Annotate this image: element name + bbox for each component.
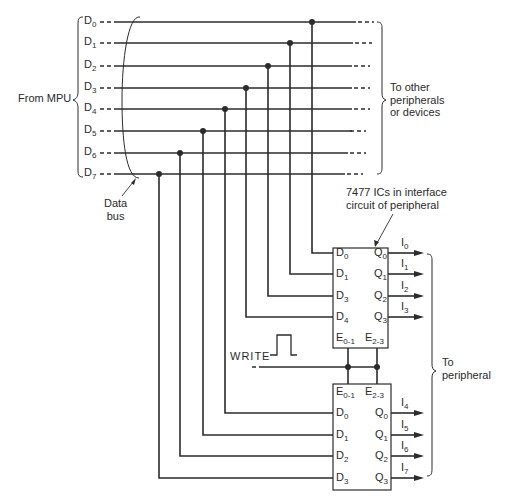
- bus-label-d6-sub: 6: [92, 151, 96, 160]
- ic-upper-pin-q1: Q1: [374, 267, 387, 282]
- bus-label-d2-sub: 2: [92, 64, 96, 73]
- to-other-peripherals-label: To other peripherals or devices: [390, 81, 444, 119]
- ic-upper-pin-q2: Q2: [374, 289, 387, 304]
- ic-lower-pin-e01: E0-1: [336, 385, 355, 400]
- data-bus-lines: [115, 22, 356, 174]
- pin-sub: 2-3: [372, 391, 384, 400]
- pin-sub: 2-3: [372, 337, 384, 346]
- pin-name: D: [336, 471, 344, 483]
- bus-label-d5-sub: 5: [92, 129, 96, 138]
- ic-lower-pin-e23: E2-3: [365, 385, 384, 400]
- bus-label-d7: D7: [84, 166, 96, 181]
- to-other-line-3: or devices: [390, 106, 444, 119]
- bus-label-d3: D3: [84, 80, 96, 95]
- ic-caption-line-1: 7477 ICs in interface: [346, 186, 447, 199]
- ic-lower-pin-q1: Q1: [375, 428, 388, 443]
- data-bus-line-2: bus: [104, 210, 127, 223]
- pin-sub: 0: [344, 412, 348, 421]
- pin-sub: 1: [344, 434, 348, 443]
- pin-sub: 3: [344, 295, 348, 304]
- bus-label-d6-name: D: [84, 145, 92, 157]
- to-peripheral-line-2: peripheral: [442, 369, 491, 382]
- bus-label-d2-name: D: [84, 58, 92, 70]
- to-other-line-1: To other: [390, 81, 444, 94]
- ic-upper-pin-d0: D0: [336, 246, 348, 261]
- pin-sub: 3: [344, 477, 348, 486]
- bus-label-d1: D1: [84, 35, 96, 50]
- pin-name: Q: [375, 406, 384, 418]
- write-pulse-icon: [270, 335, 297, 355]
- bus-label-d0: D0: [84, 14, 96, 29]
- signal-i5: I5: [401, 418, 409, 433]
- pin-sub: 2: [344, 455, 348, 464]
- ic-lower-pin-d2: D2: [336, 449, 348, 464]
- bus-label-d6: D6: [84, 145, 96, 160]
- ic-lower-pin-d1: D1: [336, 428, 348, 443]
- pin-sub: 1: [344, 273, 348, 282]
- ic-lower-pin-d0: D0: [336, 406, 348, 421]
- pin-name: Q: [374, 267, 383, 279]
- to-peripheral-line-1: To: [442, 356, 491, 369]
- ic-lower-pin-d3: D3: [336, 471, 348, 486]
- ic-caption-line-2: circuit of peripheral: [346, 199, 447, 212]
- pin-name: Q: [375, 471, 384, 483]
- signal-sub: 0: [404, 242, 408, 251]
- ic-lower-pin-q0: Q0: [375, 406, 388, 421]
- signal-i1: I1: [401, 257, 409, 272]
- pin-name: Q: [374, 310, 383, 322]
- bus-label-d3-sub: 3: [92, 86, 96, 95]
- pin-sub: 0: [383, 252, 387, 261]
- pin-sub: 3: [384, 477, 388, 486]
- pin-sub: 2: [384, 455, 388, 464]
- pin-name: D: [336, 428, 344, 440]
- pin-sub: 0: [384, 412, 388, 421]
- signal-i3: I3: [401, 300, 409, 315]
- signal-sub: 5: [404, 424, 408, 433]
- bus-label-d1-name: D: [84, 35, 92, 47]
- pin-name: D: [336, 289, 344, 301]
- bus-label-d0-name: D: [84, 14, 92, 26]
- ic-lower-pin-q3: Q3: [375, 471, 388, 486]
- pin-name: Q: [375, 428, 384, 440]
- pin-name: D: [336, 406, 344, 418]
- pin-sub: 0: [344, 252, 348, 261]
- peripheral-dash-stubs: [347, 22, 374, 174]
- signal-sub: 6: [404, 445, 408, 454]
- pin-sub: 0-1: [343, 337, 355, 346]
- bus-label-d1-sub: 1: [92, 41, 96, 50]
- signal-sub: 1: [404, 263, 408, 272]
- signal-i6: I6: [401, 439, 409, 454]
- bus-label-d7-name: D: [84, 166, 92, 178]
- bus-label-d4-name: D: [84, 101, 92, 113]
- mpu-dash-stubs: [100, 22, 115, 174]
- pin-sub: 0-1: [343, 391, 355, 400]
- ic-upper-pin-d4: D4: [336, 310, 348, 325]
- pin-name: D: [336, 267, 344, 279]
- bus-label-d5-name: D: [84, 123, 92, 135]
- from-mpu-label: From MPU: [18, 92, 71, 105]
- ic-upper-pin-q3: Q3: [374, 310, 387, 325]
- ic-upper-pin-e23: E2-3: [365, 331, 384, 346]
- data-bus-line-1: Data: [104, 197, 127, 210]
- mpu-brace: [73, 17, 83, 177]
- pin-name: D: [336, 449, 344, 461]
- pin-sub: 3: [383, 316, 387, 325]
- write-label: WRITE: [230, 350, 270, 363]
- bus-label-d4: D4: [84, 101, 96, 116]
- signal-sub: 3: [404, 306, 408, 315]
- ic-upper-pin-d3: D3: [336, 289, 348, 304]
- to-other-line-2: peripherals: [390, 94, 444, 107]
- ic-lower-pin-q2: Q2: [375, 449, 388, 464]
- pin-name: Q: [374, 289, 383, 301]
- pin-name: D: [336, 246, 344, 258]
- pin-sub: 1: [384, 434, 388, 443]
- signal-sub: 7: [404, 467, 408, 476]
- pin-name: D: [336, 310, 344, 322]
- bus-label-d3-name: D: [84, 80, 92, 92]
- bus-label-d7-sub: 7: [92, 172, 96, 181]
- bus-label-d5: D5: [84, 123, 96, 138]
- data-bus-label: Data bus: [104, 197, 127, 222]
- signal-sub: 4: [404, 402, 408, 411]
- signal-sub: 2: [404, 285, 408, 294]
- ic-upper-pin-d1: D1: [336, 267, 348, 282]
